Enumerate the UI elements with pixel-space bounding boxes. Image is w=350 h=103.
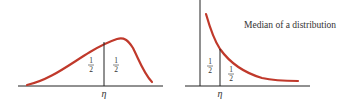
left-area-right-fraction: 1 2 — [113, 56, 119, 74]
median-diagram: 1 2 1 2 η 1 2 1 2 η Median of a distribu… — [0, 0, 350, 103]
right-area-right-fraction: 1 2 — [228, 65, 234, 83]
svg-text:1: 1 — [208, 57, 212, 66]
left-plot: 1 2 1 2 η — [18, 38, 163, 99]
left-area-left-fraction: 1 2 — [88, 56, 94, 74]
svg-text:2: 2 — [89, 65, 93, 74]
left-median-label: η — [102, 88, 107, 99]
caption: Median of a distribution — [244, 20, 336, 30]
svg-text:2: 2 — [114, 65, 118, 74]
right-median-label: η — [218, 88, 223, 99]
svg-text:1: 1 — [229, 65, 233, 74]
svg-text:1: 1 — [89, 56, 93, 65]
right-plot: 1 2 1 2 η — [185, 0, 310, 99]
svg-text:1: 1 — [114, 56, 118, 65]
svg-text:2: 2 — [229, 74, 233, 83]
right-area-left-fraction: 1 2 — [207, 57, 213, 75]
svg-text:2: 2 — [208, 66, 212, 75]
